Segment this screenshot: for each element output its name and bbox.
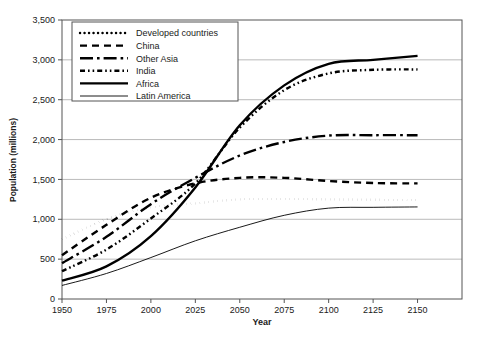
population-projection-chart: 05001,0001,5002,0002,5003,0003,500 19501… (0, 0, 490, 354)
x-tick-label: 2150 (408, 305, 428, 315)
y-tick-label: 2,000 (32, 135, 55, 145)
x-tick-label: 2000 (141, 305, 161, 315)
x-tick-label: 1975 (96, 305, 116, 315)
legend-label: Latin America (136, 91, 191, 101)
chart-canvas: 05001,0001,5002,0002,5003,0003,500 19501… (0, 0, 490, 354)
x-tick-label: 2075 (274, 305, 294, 315)
x-tick-label: 2025 (185, 305, 205, 315)
y-tick-label: 500 (40, 254, 55, 264)
y-tick-label: 2,500 (32, 95, 55, 105)
x-tick-label: 1950 (52, 305, 72, 315)
y-tick-label: 0 (50, 294, 55, 304)
y-tick-label: 1,500 (32, 175, 55, 185)
legend-label: Other Asia (136, 54, 178, 64)
x-tick-label: 2100 (319, 305, 339, 315)
legend-label: India (136, 66, 156, 76)
legend-label: China (136, 41, 160, 51)
y-tick-label: 3,500 (32, 15, 55, 25)
x-tick-label: 2125 (363, 305, 383, 315)
legend-label: Africa (136, 79, 159, 89)
y-axis-ticks: 05001,0001,5002,0002,5003,0003,500 (32, 15, 62, 304)
x-axis-ticks: 195019752000202520502075210021252150 (52, 299, 428, 315)
y-tick-label: 1,000 (32, 214, 55, 224)
x-axis-title: Year (252, 317, 272, 327)
legend: Developed countriesChinaOther AsiaIndiaA… (72, 22, 238, 101)
y-tick-label: 3,000 (32, 55, 55, 65)
y-axis-title: Population (millions) (8, 118, 18, 202)
x-tick-label: 2050 (230, 305, 250, 315)
legend-label: Developed countries (136, 28, 219, 38)
